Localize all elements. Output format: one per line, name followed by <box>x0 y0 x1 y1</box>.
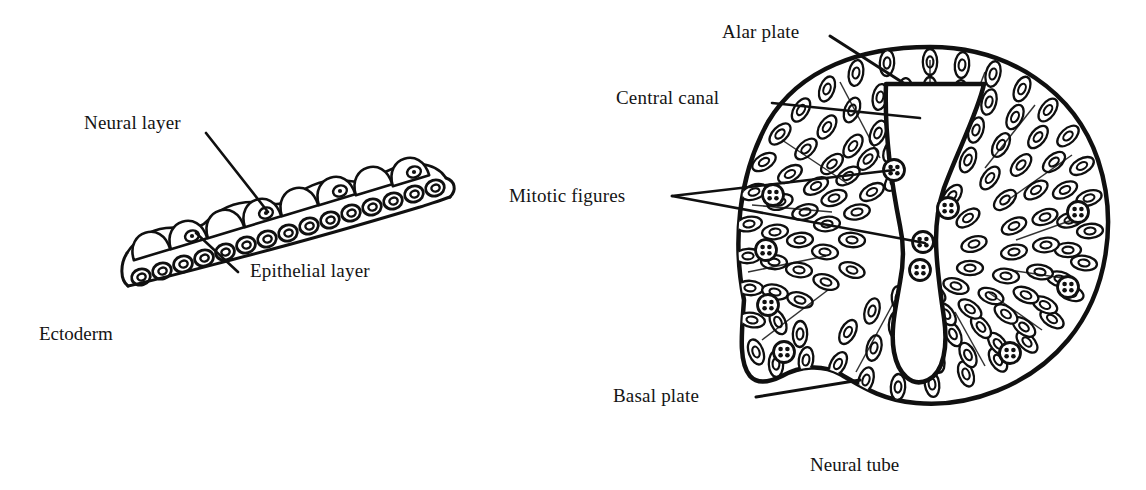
leader-neural-layer <box>206 133 268 212</box>
label-basal-plate: Basal plate <box>613 386 699 405</box>
caption-ectoderm: Ectoderm <box>39 324 113 343</box>
label-neural-layer: Neural layer <box>84 113 181 132</box>
label-epithelial-layer: Epithelial layer <box>250 261 370 280</box>
neural-tube-section <box>735 47 1108 404</box>
caption-neural-tube: Neural tube <box>810 455 899 474</box>
diagram-artwork <box>0 0 1146 490</box>
figure-root: Neural layer Epithelial layer Ectoderm A… <box>0 0 1146 490</box>
label-alar-plate: Alar plate <box>722 22 799 41</box>
label-central-canal: Central canal <box>616 88 719 107</box>
leader-basal-plate <box>756 380 860 397</box>
label-mitotic-figures: Mitotic figures <box>509 186 625 205</box>
